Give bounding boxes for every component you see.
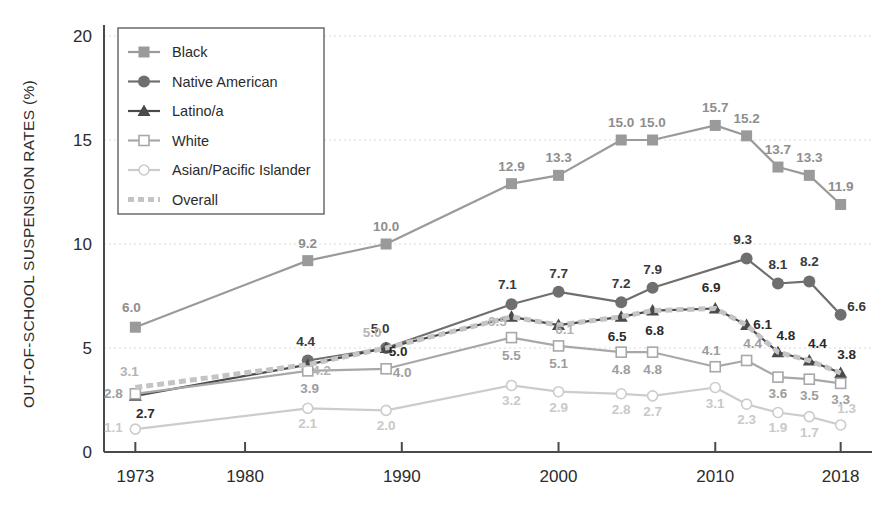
data-label: 5.0 [363, 325, 382, 340]
y-tick-label-20: 20 [73, 27, 92, 46]
data-label: 6.5 [608, 329, 627, 344]
legend-marker-swatch [139, 165, 149, 175]
x-tick-label-1990: 1990 [383, 467, 421, 486]
data-point-marker [303, 403, 313, 413]
data-label: 10.0 [373, 219, 399, 234]
data-point-marker [648, 347, 658, 357]
data-label: 13.3 [796, 150, 823, 165]
data-label: 4.4 [808, 336, 827, 351]
y-tick-label-5: 5 [83, 339, 92, 358]
legend-marker-swatch [139, 47, 150, 58]
data-point-marker [710, 120, 721, 131]
data-label: 2.7 [643, 404, 662, 419]
data-label: 2.7 [136, 406, 155, 421]
y-tick-label-15: 15 [73, 131, 92, 150]
data-label: 3.1 [706, 396, 725, 411]
data-label: 3.1 [120, 364, 139, 379]
data-label: 15.7 [702, 100, 728, 115]
data-label: 2.0 [377, 418, 396, 433]
data-label: 6.0 [122, 300, 141, 315]
data-label: 12.9 [498, 159, 524, 174]
data-point-marker [381, 405, 391, 415]
data-label: 7.7 [549, 266, 568, 281]
data-label: 2.8 [612, 402, 631, 417]
data-label: 7.2 [612, 276, 631, 291]
data-point-marker [835, 309, 847, 321]
data-label: 7.1 [498, 277, 517, 292]
data-label: 15.0 [608, 115, 634, 130]
data-label: 8.2 [800, 254, 819, 269]
data-label: 6.9 [702, 280, 721, 295]
data-label: 6.1 [753, 317, 772, 332]
data-label: 8.1 [769, 257, 788, 272]
data-point-marker [616, 135, 627, 146]
legend-item-label: Latino/a [172, 103, 225, 119]
data-point-marker [772, 278, 784, 290]
data-label: 15.0 [639, 115, 665, 130]
data-point-marker [616, 389, 626, 399]
data-point-marker [553, 286, 565, 298]
data-label: 5.5 [502, 348, 521, 363]
data-point-marker [302, 255, 313, 266]
chart-container: 05101520197319801990200020102018OUT-OF-S… [0, 0, 884, 514]
data-label: 13.7 [765, 142, 791, 157]
data-point-marker [836, 378, 846, 388]
data-point-marker [804, 374, 814, 384]
legend-item-label: Black [172, 44, 208, 60]
legend-item-label: Asian/Pacific Islander [172, 162, 311, 178]
y-axis-title: OUT-OF-SCHOOL SUSPENSION RATES (%) [20, 80, 37, 408]
suspension-rates-line-chart: 05101520197319801990200020102018OUT-OF-S… [0, 0, 884, 514]
data-point-marker [710, 383, 720, 393]
data-point-marker [648, 391, 658, 401]
data-point-marker [742, 355, 752, 365]
series-line-path [135, 338, 840, 394]
data-label: 6.8 [645, 323, 664, 338]
legend-item-label: Native American [172, 74, 278, 90]
data-point-marker [615, 296, 627, 308]
data-label: 3.2 [502, 393, 521, 408]
data-label: 7.9 [643, 262, 662, 277]
data-point-marker [506, 298, 518, 310]
data-label: 4.8 [777, 328, 796, 343]
data-point-marker [710, 362, 720, 372]
data-point-marker [773, 407, 783, 417]
data-point-marker [616, 347, 626, 357]
data-point-marker [836, 420, 846, 430]
data-point-marker [381, 364, 391, 374]
data-label: 3.8 [837, 347, 856, 362]
data-label: 3.9 [300, 381, 319, 396]
data-point-marker [804, 170, 815, 181]
data-label: 1.3 [837, 401, 856, 416]
data-point-marker [773, 372, 783, 382]
data-point-marker [554, 387, 564, 397]
data-point-marker [507, 333, 517, 343]
data-label: 9.2 [298, 236, 317, 251]
data-label: 5.0 [389, 344, 408, 359]
data-point-marker [741, 130, 752, 141]
data-label: 1.9 [769, 420, 788, 435]
data-label: 4.0 [393, 365, 412, 380]
y-tick-label-10: 10 [73, 235, 92, 254]
series-line-path [135, 385, 840, 429]
x-tick-label-1973: 1973 [116, 467, 154, 486]
data-label: 2.1 [298, 416, 317, 431]
data-label: 2.3 [737, 412, 756, 427]
data-label: 11.9 [828, 179, 854, 194]
data-label: 6.6 [847, 299, 866, 314]
legend-item-label: White [172, 133, 209, 149]
data-label: 2.8 [104, 386, 123, 401]
data-point-marker [741, 253, 753, 265]
data-label: 4.8 [612, 362, 631, 377]
data-label: 4.1 [702, 343, 721, 358]
data-point-marker [506, 178, 517, 189]
data-label: 3.5 [800, 388, 819, 403]
data-label: 6.5 [488, 314, 507, 329]
x-tick-label-2018: 2018 [822, 467, 860, 486]
data-label: 4.2 [312, 363, 331, 378]
data-label: 13.3 [545, 150, 572, 165]
legend-marker-swatch [139, 136, 149, 146]
data-label: 4.4 [743, 336, 762, 351]
legend: BlackNative AmericanLatino/aWhiteAsian/P… [118, 28, 324, 214]
data-label: 9.3 [733, 232, 752, 247]
x-tick-label-2010: 2010 [696, 467, 734, 486]
